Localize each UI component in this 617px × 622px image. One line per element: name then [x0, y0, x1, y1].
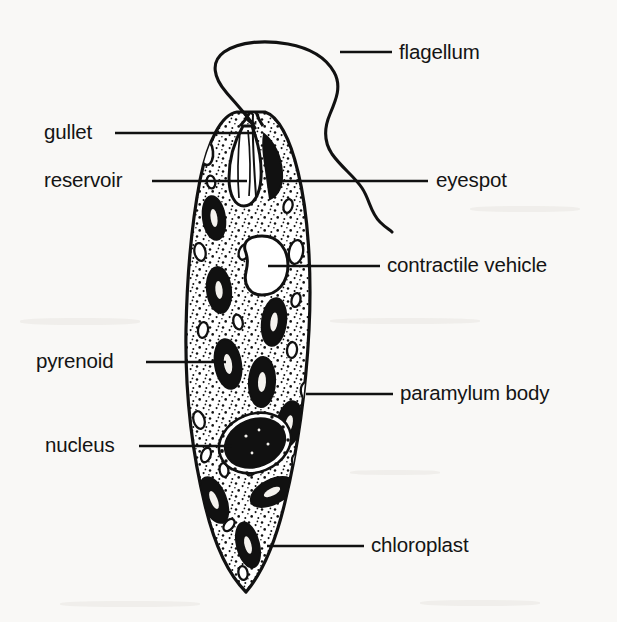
label-contractile-vehicle: contractile vehicle: [387, 255, 547, 276]
label-reservoir: reservoir: [44, 170, 122, 191]
label-paramylum-body: paramylum body: [400, 383, 549, 404]
cell-body-group: [186, 42, 392, 592]
label-flagellum: flagellum: [399, 42, 480, 63]
label-pyrenoid: pyrenoid: [36, 351, 113, 372]
euglena-diagram: [0, 0, 617, 622]
label-gullet: gullet: [44, 122, 92, 143]
label-nucleus: nucleus: [45, 435, 115, 456]
label-chloroplast: chloroplast: [371, 535, 469, 556]
diagram-page: flagellum gullet reservoir eyespot contr…: [0, 0, 617, 622]
label-eyespot: eyespot: [436, 170, 507, 191]
